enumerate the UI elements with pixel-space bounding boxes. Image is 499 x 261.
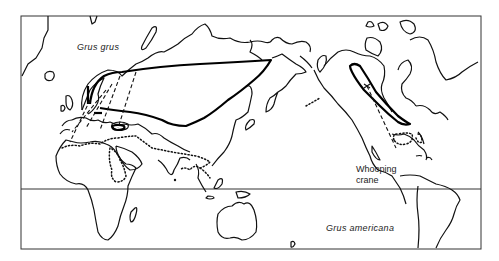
world-map [0,0,499,261]
svalbard [90,16,97,24]
africa-coast [56,140,136,240]
kamchatka [266,54,306,112]
arctic-island-2 [366,22,374,28]
alaska-west [317,56,326,73]
europe-mediterranean [72,117,190,152]
south-america [400,175,460,248]
new-guinea [236,191,250,198]
madagascar [130,208,137,222]
arabia [116,146,142,170]
baja-california [372,146,380,160]
label-whooping-line2: crane [356,175,379,186]
hudson-bay [398,60,416,106]
whooping-crane-breeding-range [350,64,410,125]
grus-grus-wintering-range [62,136,210,170]
label-grus-grus: Grus grus [77,42,119,53]
east-asia-wintering [200,168,210,178]
west-europe-coast [60,120,72,134]
label-grus-americana: Grus americana [326,223,394,234]
australia [217,202,257,240]
arctic-island-3 [378,22,388,30]
florida-wintering-range [416,134,422,143]
indonesia-1 [214,179,223,189]
novaya-zemlya [142,27,157,50]
new-zealand [291,241,295,247]
japan [246,120,255,131]
ireland [61,105,65,111]
migration-route-5 [70,100,90,142]
caspian-breeding-patch [112,125,124,130]
greenland-right [410,37,478,80]
arctic-island-4 [400,20,415,34]
greenland-coast [22,16,48,76]
migration-route-1 [118,72,136,128]
south-america-west [417,186,419,248]
label-whooping-line1: Whooping [356,164,397,175]
arctic-island-1 [365,38,381,57]
india [158,157,190,174]
labrador [416,106,448,121]
sri-lanka [174,179,176,181]
bering-dotted-line [306,98,320,106]
caribbean [416,156,432,161]
iceland [45,71,54,80]
british-isles [66,96,73,111]
migration-start-cross [364,84,370,88]
indonesia-2 [206,196,214,199]
